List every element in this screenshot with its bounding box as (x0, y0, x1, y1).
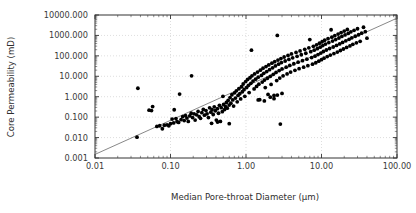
y-tick-label: 10000.000 (44, 10, 88, 20)
x-axis-title: Median Pore-throat Diameter (µm) (171, 192, 319, 202)
y-tick-label: 0.001 (65, 153, 88, 163)
x-tick-label: 0.01 (86, 161, 104, 171)
x-tick-label: 0.10 (161, 161, 179, 171)
y-tick-label: 0.100 (65, 112, 88, 122)
x-tick-label: 100.00 (383, 161, 412, 171)
y-tick-label: 100.000 (54, 51, 88, 61)
y-tick-label: 0.010 (65, 133, 88, 143)
x-tick-label: 10.00 (310, 161, 333, 171)
x-tick-label: 1.00 (237, 161, 255, 171)
permeability-vs-pore-throat-chart: 0.010.101.0010.00100.00 0.0010.0100.1001… (0, 0, 416, 213)
y-tick-label: 1.000 (65, 92, 88, 102)
y-axis-title: Core Permeability (mD) (6, 37, 16, 138)
y-tick-label: 1000.000 (49, 30, 88, 40)
y-tick-label: 10.000 (59, 71, 88, 81)
scatter-plot-figure: 0.010.101.0010.00100.00 0.0010.0100.1001… (0, 0, 416, 213)
